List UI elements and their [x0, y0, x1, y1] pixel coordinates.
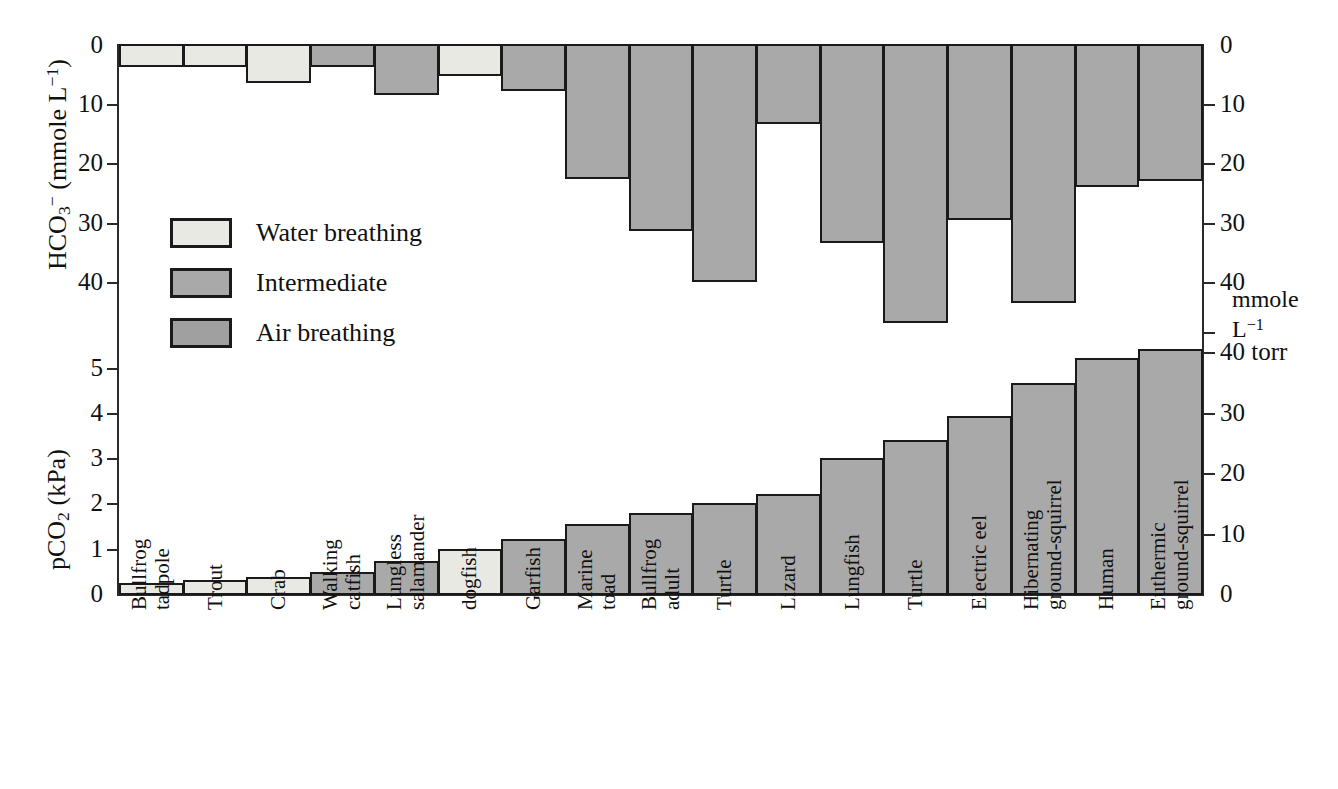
legend-swatch-air	[170, 318, 232, 348]
right-unit-label: mmole L−1	[1232, 286, 1299, 342]
bar-upper-hco3	[947, 44, 1012, 220]
category-label: Hibernatingground-squirrel	[1020, 479, 1066, 610]
bar-upper-hco3	[820, 44, 885, 243]
ytick-label-upper-left: 40	[43, 269, 103, 294]
category-label-line: tadpole	[151, 539, 174, 610]
lower-y-axis-title: pCO2 (kPa)	[42, 449, 74, 570]
category-label-line: Lungless	[383, 514, 406, 610]
ytick-label-upper-right: 10	[1220, 91, 1245, 116]
axis-tick	[1204, 352, 1215, 354]
bar-upper-hco3	[756, 44, 821, 124]
category-label: Trout	[204, 564, 227, 610]
category-label: Bullfrogadult	[638, 539, 684, 610]
ytick-label-lower-right: 30	[1220, 400, 1245, 425]
ytick-label-lower-right: 20	[1220, 460, 1245, 485]
category-label: Electric eel	[968, 515, 991, 610]
axis-tick	[107, 368, 118, 370]
axis-tick	[1204, 332, 1215, 334]
category-label-line: Marine	[574, 549, 597, 610]
bar-upper-hco3	[374, 44, 439, 95]
legend-label-intermediate: Intermediate	[256, 267, 387, 299]
category-label-line: toad	[597, 549, 620, 610]
category-label-line: Electric eel	[968, 515, 991, 610]
bar-upper-hco3	[1011, 44, 1076, 303]
category-label-line: ground-squirrel	[1170, 479, 1193, 610]
category-label-line: salamander	[406, 514, 429, 610]
category-label: Euthermicground-squirrel	[1147, 479, 1193, 610]
ytick-label-lower-left: 4	[43, 400, 103, 425]
category-label-line: Human	[1095, 548, 1118, 610]
category-label-line: dogfish	[458, 547, 481, 610]
bar-upper-hco3	[629, 44, 694, 231]
axis-tick	[107, 223, 118, 225]
axis-tick	[107, 503, 118, 505]
ytick-label-lower-right: 10	[1220, 521, 1245, 546]
bar-upper-hco3	[183, 44, 248, 67]
category-label-line: Lungfish	[841, 534, 864, 610]
bar-upper-hco3	[501, 44, 566, 91]
axis-tick	[1204, 473, 1215, 475]
category-label-line: Bullfrog	[128, 539, 151, 610]
bar-upper-hco3	[565, 44, 630, 179]
category-label: Crab	[267, 569, 290, 610]
axis-tick	[1204, 282, 1215, 284]
legend-swatch-intermediate	[170, 268, 232, 298]
category-label-line: Lizard	[777, 555, 800, 610]
bar-upper-hco3	[310, 44, 375, 67]
category-label: Garfish	[522, 547, 545, 610]
axis-tick	[107, 163, 118, 165]
category-label-line: Euthermic	[1147, 479, 1170, 610]
ytick-label-lower-right: 0	[1220, 581, 1233, 606]
axis-tick	[107, 104, 118, 106]
right-unit-line2: L−1	[1232, 312, 1299, 342]
right-unit-line1: mmole	[1232, 286, 1299, 312]
axis-tick	[1204, 163, 1215, 165]
axis-tick	[107, 413, 118, 415]
category-label-line: Walking	[319, 539, 342, 610]
axis-tick	[1204, 413, 1215, 415]
axis-tick	[107, 458, 118, 460]
ytick-label-upper-right: 0	[1220, 32, 1233, 57]
category-label-line: catfish	[342, 539, 365, 610]
category-label: Bullfrogtadpole	[128, 539, 174, 610]
bar-upper-hco3	[692, 44, 757, 282]
bar-upper-hco3	[1138, 44, 1203, 181]
category-label: Turtle	[713, 559, 736, 610]
legend-swatch-water	[170, 218, 232, 248]
axis-tick	[1204, 223, 1215, 225]
category-label-line: Turtle	[713, 559, 736, 610]
category-label: dogfish	[458, 547, 481, 610]
category-label-line: Crab	[267, 569, 290, 610]
bar-upper-hco3	[883, 44, 948, 323]
axis-tick	[107, 549, 118, 551]
category-label: Walkingcatfish	[319, 539, 365, 610]
ytick-label-lower-left: 5	[43, 355, 103, 380]
bar-upper-hco3	[438, 44, 503, 76]
category-label-line: adult	[661, 539, 684, 610]
category-label: Lizard	[777, 555, 800, 610]
category-label: Human	[1095, 548, 1118, 610]
axis-tick	[1204, 104, 1215, 106]
left-axis-line	[117, 44, 119, 596]
category-label-line: Bullfrog	[638, 539, 661, 610]
category-label: Lungfish	[841, 534, 864, 610]
bar-upper-hco3	[119, 44, 184, 67]
bar-upper-hco3	[1075, 44, 1140, 187]
ytick-label-lower-right: 40 torr	[1220, 339, 1287, 364]
ytick-label-lower-left: 0	[43, 581, 103, 606]
axis-tick	[1204, 534, 1215, 536]
axis-tick	[107, 282, 118, 284]
bar-upper-hco3	[246, 44, 311, 83]
legend-label-water: Water breathing	[256, 217, 422, 249]
ytick-label-upper-left: 0	[43, 32, 103, 57]
category-label-line: ground-squirrel	[1043, 479, 1066, 610]
legend-label-air: Air breathing	[256, 317, 395, 349]
figure-root: 010203040010203040012345010203040 torr H…	[0, 0, 1338, 789]
upper-y-axis-title: HCO3− (mmole L−1)	[42, 59, 75, 270]
category-label: Marinetoad	[574, 549, 620, 610]
category-label-line: Trout	[204, 564, 227, 610]
category-label-line: Turtle	[904, 559, 927, 610]
ytick-label-upper-right: 30	[1220, 210, 1245, 235]
category-label-line: Hibernating	[1020, 479, 1043, 610]
category-label: Turtle	[904, 559, 927, 610]
